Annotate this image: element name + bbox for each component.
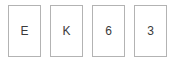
character-entry-widget: E K 6 3 — [0, 0, 179, 65]
character-cell-2-value: K — [62, 25, 70, 37]
character-cell-4-value: 3 — [147, 25, 154, 37]
character-cell-1[interactable]: E — [8, 5, 41, 57]
character-cell-group: E K 6 3 — [8, 5, 167, 57]
character-cell-3-value: 6 — [105, 25, 112, 37]
character-cell-2[interactable]: K — [50, 5, 83, 57]
character-cell-1-value: E — [20, 25, 28, 37]
character-cell-4[interactable]: 3 — [134, 5, 167, 57]
character-cell-3[interactable]: 6 — [92, 5, 125, 57]
